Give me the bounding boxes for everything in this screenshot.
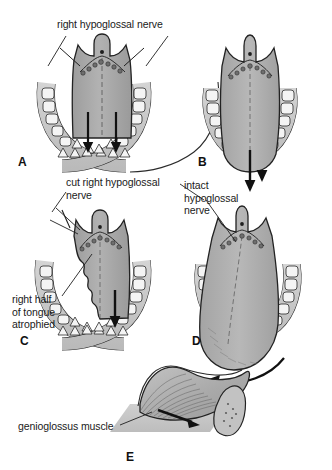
panel-a-illustration: [37, 34, 219, 172]
panel-letter-a: A: [18, 155, 27, 169]
label-right-half-of-tongue-atrophied: right half of tongue atrophied: [12, 293, 55, 331]
label-genioglossus-muscle: genioglossus muscle: [18, 420, 114, 433]
label-right-hypoglossal-nerve: right hypoglossal nerve: [57, 18, 163, 31]
panel-letter-c: C: [20, 334, 29, 348]
panel-letter-e: E: [126, 450, 134, 464]
label-cut-right-hypoglossal-nerve: cut right hypoglossal nerve: [66, 176, 160, 201]
label-intact-hypoglossal-nerve: intact hypoglossal nerve: [184, 179, 238, 217]
panel-letter-d: D: [192, 334, 201, 348]
panel-letter-b: B: [198, 155, 207, 169]
anatomy-illustration: [0, 0, 332, 470]
panel-e-illustration: [110, 366, 249, 436]
panel-b-illustration: [203, 35, 297, 192]
figure-canvas: right hypoglossal nerve cut right hypogl…: [0, 0, 332, 470]
